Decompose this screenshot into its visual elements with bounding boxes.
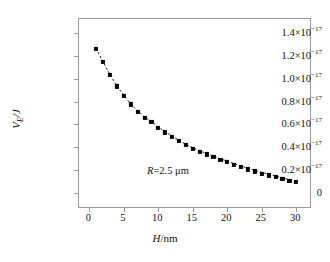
y-axis-tick bbox=[74, 56, 79, 57]
radius-annotation: R=2.5 μm bbox=[147, 165, 189, 176]
data-point-marker bbox=[191, 146, 195, 150]
data-point-marker bbox=[149, 120, 153, 124]
x-axis-tick-label: 15 bbox=[187, 212, 198, 223]
y-axis-title: VE/J bbox=[10, 109, 22, 128]
data-point-marker bbox=[136, 110, 140, 114]
data-point-marker bbox=[170, 135, 174, 139]
data-point-marker bbox=[198, 150, 202, 154]
data-point-marker bbox=[204, 152, 208, 156]
data-point-marker bbox=[177, 139, 181, 143]
data-point-marker bbox=[225, 160, 229, 164]
y-axis-tick-label: 0.4×10−17 bbox=[282, 141, 323, 152]
data-point-marker bbox=[280, 177, 284, 181]
data-point-marker bbox=[184, 143, 188, 147]
data-point-marker bbox=[156, 126, 160, 130]
data-point-marker bbox=[108, 73, 112, 77]
y-axis-tick-label: 1.0×10−17 bbox=[282, 72, 323, 83]
y-axis-tick bbox=[74, 124, 79, 125]
annotation-text: =2.5 μm bbox=[153, 165, 188, 176]
data-point-marker bbox=[218, 158, 222, 162]
x-axis-tick-label: 5 bbox=[120, 212, 125, 223]
x-axis-tick-label: 25 bbox=[255, 212, 266, 223]
x-axis-title: H/nm bbox=[0, 232, 330, 244]
data-point-marker bbox=[287, 179, 291, 183]
data-point-marker bbox=[253, 169, 257, 173]
y-axis-tick bbox=[74, 147, 79, 148]
data-point-marker bbox=[211, 155, 215, 159]
data-point-marker bbox=[115, 84, 119, 88]
y-axis-symbol: V bbox=[10, 122, 22, 129]
data-point-marker bbox=[239, 165, 243, 169]
data-point-marker bbox=[122, 93, 126, 97]
y-axis-tick bbox=[74, 33, 79, 34]
data-point-marker bbox=[260, 171, 264, 175]
data-point-marker bbox=[101, 60, 105, 64]
y-axis-tick-label: 0.6×10−17 bbox=[282, 118, 323, 129]
data-point-marker bbox=[94, 46, 98, 50]
data-point-marker bbox=[232, 163, 236, 167]
x-axis-tick-label: 30 bbox=[290, 212, 301, 223]
data-point-marker bbox=[142, 115, 146, 119]
x-axis-tick-label: 20 bbox=[221, 212, 232, 223]
data-point-marker bbox=[267, 173, 271, 177]
data-point-marker bbox=[294, 180, 298, 184]
data-point-marker bbox=[246, 167, 250, 171]
y-axis-tick-label: 1.2×10−17 bbox=[282, 49, 323, 60]
series-dashed-line bbox=[96, 48, 294, 180]
data-point-marker bbox=[163, 130, 167, 134]
y-axis-tick-label: 1.4×10−17 bbox=[282, 26, 323, 37]
data-point-marker bbox=[273, 175, 277, 179]
y-axis-tick bbox=[74, 102, 79, 103]
y-axis-tick bbox=[74, 170, 79, 171]
x-axis-tick-label: 0 bbox=[86, 212, 91, 223]
y-axis-tick bbox=[74, 193, 79, 194]
y-axis-tick-labels bbox=[0, 0, 78, 262]
y-axis-tick-label: 0.8×10−17 bbox=[282, 95, 323, 106]
y-axis-subscript: E bbox=[16, 117, 25, 122]
y-axis-unit: /J bbox=[10, 109, 22, 117]
plot-area bbox=[78, 18, 311, 208]
x-axis-tick-label: 10 bbox=[152, 212, 163, 223]
y-axis-tick-label: 0.2×10−17 bbox=[282, 164, 323, 175]
x-axis-unit: /nm bbox=[160, 232, 177, 244]
chart-figure: VE/J H/nm 00.2×10−170.4×10−170.6×10−170.… bbox=[0, 0, 330, 262]
data-point-marker bbox=[129, 102, 133, 106]
y-axis-tick bbox=[74, 79, 79, 80]
y-axis-tick-label: 0 bbox=[317, 187, 322, 198]
